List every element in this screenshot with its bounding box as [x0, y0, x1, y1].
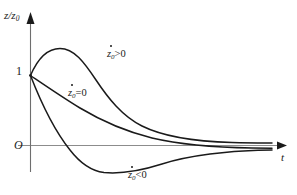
curve-zdot-positive: [31, 49, 273, 144]
curve-zdot-negative: [31, 76, 273, 173]
y-tick-label-one: 1: [16, 65, 22, 77]
x-axis-label: t: [281, 152, 284, 163]
y-axis-label: z/z0: [4, 10, 19, 23]
curve-label-zdot-negative: z0<0: [128, 170, 147, 182]
curve-label-zdot-positive: z0>0: [107, 49, 126, 61]
overdot-icon: [71, 84, 73, 86]
damped-response-figure: z/z0 t 1 O z0>0 z0=0 z0<0: [0, 0, 297, 195]
overdot-icon: [131, 166, 133, 168]
overdot-icon: [110, 45, 112, 47]
curve-zdot-zero: [31, 76, 273, 149]
y-axis-label-subscript: 0: [16, 14, 20, 23]
zdot-glyph-positive: z0: [107, 49, 115, 61]
zdot-sub-positive: 0: [111, 53, 115, 61]
start-point-marker: [29, 74, 32, 77]
zdot-op-zero: =0: [76, 87, 87, 98]
x-axis-arrowhead: [277, 142, 287, 150]
zdot-op-negative: <0: [136, 169, 147, 180]
zdot-sub-zero: 0: [72, 92, 76, 100]
zdot-sub-negative: 0: [132, 174, 136, 182]
plot-area: [0, 0, 297, 195]
zdot-glyph-negative: z0: [128, 170, 136, 182]
zdot-glyph-zero: z0: [68, 88, 76, 100]
origin-label: O: [14, 139, 23, 151]
y-axis-arrowhead: [27, 12, 35, 24]
curve-label-zdot-zero: z0=0: [68, 88, 87, 100]
zdot-op-positive: >0: [115, 48, 126, 59]
